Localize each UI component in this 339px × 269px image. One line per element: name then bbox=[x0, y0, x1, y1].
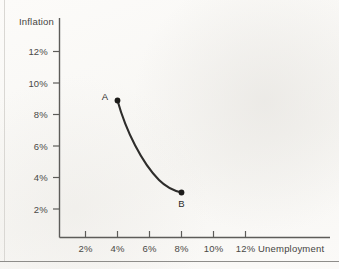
x-tick-label-12: 12% bbox=[236, 243, 256, 254]
x-tick-label-2: 2% bbox=[78, 243, 92, 254]
chart-plot-area: 12% 10% 8% 6% 4% 2% 2% 4% 6% 8% 10% 12% … bbox=[0, 0, 339, 269]
point-a-label: A bbox=[102, 91, 109, 102]
point-a-marker bbox=[115, 98, 121, 104]
point-b-marker bbox=[179, 190, 185, 196]
y-axis-title: Inflation bbox=[19, 16, 54, 27]
x-tick-label-6: 6% bbox=[142, 243, 156, 254]
x-tick-label-8: 8% bbox=[174, 243, 188, 254]
y-tick-label-2: 2% bbox=[34, 204, 48, 215]
y-tick-label-8: 8% bbox=[34, 109, 48, 120]
phillips-curve-figure: 12% 10% 8% 6% 4% 2% 2% 4% 6% 8% 10% 12% … bbox=[0, 0, 339, 269]
point-b-label: B bbox=[178, 198, 184, 209]
phillips-curve-line bbox=[118, 101, 182, 193]
x-tick-label-10: 10% bbox=[204, 243, 224, 254]
x-tick-label-4: 4% bbox=[110, 243, 124, 254]
y-tick-label-12: 12% bbox=[28, 46, 48, 57]
y-tick-label-4: 4% bbox=[34, 172, 48, 183]
y-tick-label-6: 6% bbox=[34, 141, 48, 152]
y-tick-label-10: 10% bbox=[28, 78, 48, 89]
x-axis-title: Unemployment bbox=[258, 243, 324, 254]
